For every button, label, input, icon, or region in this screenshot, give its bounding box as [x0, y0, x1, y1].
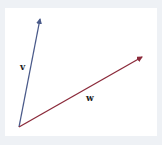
vector-v-arrow — [19, 19, 40, 127]
vector-diagram: v w — [0, 0, 162, 145]
vector-w-arrow — [19, 57, 142, 127]
vector-v-label: v — [19, 62, 26, 72]
vector-w-label: w — [85, 93, 94, 103]
figure-frame: v w — [0, 0, 162, 145]
